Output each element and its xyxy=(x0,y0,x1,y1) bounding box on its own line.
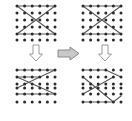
down-arrow-icon xyxy=(97,44,113,62)
bottom-right-points xyxy=(82,69,123,104)
bottom-right-lattice-svg xyxy=(79,66,125,110)
bottom-left-lattice-svg xyxy=(13,66,59,110)
top-right-segments xyxy=(83,6,121,34)
top-right-lattice-svg xyxy=(79,2,125,42)
bottom-right-segments xyxy=(83,70,121,102)
bottom-left-segments xyxy=(17,70,55,94)
arrow-right-down xyxy=(97,44,113,62)
right-arrow-icon xyxy=(57,46,81,62)
panel-bottom-right xyxy=(79,66,125,110)
top-left-segments xyxy=(17,6,55,34)
top-left-lattice-svg xyxy=(13,2,59,42)
panel-top-right xyxy=(79,2,125,42)
arrow-center-right xyxy=(57,46,81,62)
panel-top-left xyxy=(13,2,59,42)
figure-root: Point lattice transformation diagram xyxy=(0,0,132,121)
down-arrow-icon xyxy=(28,44,44,62)
panel-bottom-left xyxy=(13,66,59,110)
arrow-left-down xyxy=(28,44,44,62)
